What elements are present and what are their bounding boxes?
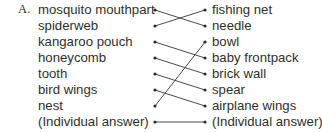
connection-line-5 [155,74,205,90]
left-node-dot-l2[interactable] [153,24,156,27]
left-term-l6[interactable]: bird wings [38,82,141,98]
left-terms-column: mosquito mouthpartspiderwebkangaroo pouc… [0,0,150,133]
connection-line-2 [155,10,205,26]
left-term-l1[interactable]: mosquito mouthpart [38,2,141,18]
right-term-r6[interactable]: spear [212,82,245,98]
connection-line-6 [155,90,205,106]
matching-exercise-page: A. mosquito mouthpartspiderwebkangaroo p… [0,0,322,133]
left-node-dot-l4[interactable] [153,56,156,59]
connection-line-4 [155,58,205,74]
right-node-dot-r3[interactable] [203,40,206,43]
left-node-dot-l7[interactable] [153,104,156,107]
left-node-dot-l5[interactable] [153,72,156,75]
right-term-r4[interactable]: baby frontpack [212,50,299,66]
right-term-r1[interactable]: fishing net [212,2,272,18]
left-term-l3[interactable]: kangaroo pouch [38,34,141,50]
right-term-r3[interactable]: bowl [212,34,239,50]
connection-line-7 [155,42,205,106]
left-term-l5[interactable]: tooth [38,66,141,82]
left-term-l8[interactable]: (Individual answer) [38,114,141,130]
right-term-r7[interactable]: airplane wings [212,98,296,114]
right-node-dot-r7[interactable] [203,104,206,107]
right-node-dot-r6[interactable] [203,88,206,91]
right-node-dot-r2[interactable] [203,24,206,27]
right-term-r5[interactable]: brick wall [212,66,266,82]
left-term-l4[interactable]: honeycomb [38,50,141,66]
left-term-l2[interactable]: spiderweb [38,18,141,34]
right-node-dot-r5[interactable] [203,72,206,75]
right-node-dot-r4[interactable] [203,56,206,59]
right-node-dot-r1[interactable] [203,8,206,11]
left-node-dot-l6[interactable] [153,88,156,91]
connection-line-3 [155,42,205,58]
left-node-dot-l3[interactable] [153,40,156,43]
right-term-r2[interactable]: needle [212,18,252,34]
right-terms-column: fishing netneedlebowlbaby frontpackbrick… [212,0,322,133]
left-term-l7[interactable]: nest [38,98,141,114]
right-term-r8[interactable]: (Individual answer) [212,114,322,130]
left-node-dot-l8[interactable] [153,120,156,123]
right-node-dot-r8[interactable] [203,120,206,123]
connection-line-1 [155,10,205,26]
